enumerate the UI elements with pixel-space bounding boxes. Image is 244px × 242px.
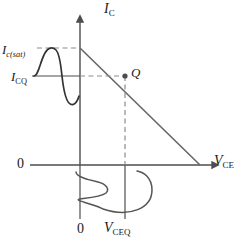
icq-label: ICQ	[11, 70, 27, 83]
x-axis-label: VCE	[214, 154, 234, 168]
icq-subscript: CQ	[15, 77, 27, 86]
vceq-symbol: V	[104, 220, 113, 235]
ic-sat-subscript: c(sat)	[6, 50, 25, 59]
y-axis-subscript: C	[109, 8, 115, 18]
load-line-figure: IC VCE Ic(sat) ICQ Q 0 0 VCEQ	[0, 0, 244, 242]
load-line-drawing	[0, 0, 244, 242]
x-axis-subscript: CE	[223, 160, 234, 170]
vceq-label: VCEQ	[104, 221, 130, 235]
ic-sat-label: Ic(sat)	[2, 43, 25, 56]
x-axis-symbol: V	[214, 153, 223, 168]
q-point-label: Q	[131, 66, 140, 79]
origin-label: 0	[17, 157, 24, 171]
q-point-text: Q	[131, 65, 140, 80]
q-point-marker	[122, 73, 127, 78]
origin-lower-label: 0	[77, 222, 84, 236]
collector-voltage-waveform	[76, 171, 152, 212]
vceq-subscript: CEQ	[113, 227, 131, 237]
y-axis-label: IC	[104, 2, 115, 16]
y-axis-symbol: I	[104, 1, 109, 16]
